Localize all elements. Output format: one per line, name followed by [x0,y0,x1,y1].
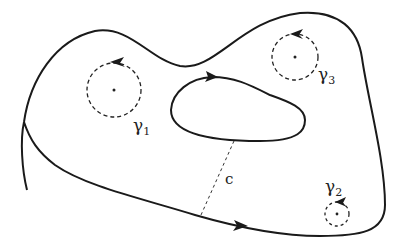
gamma1-arrow-icon [110,57,125,67]
gamma1-group [87,57,141,117]
gamma2-group [325,197,349,226]
inner-boundary-curve [171,77,305,141]
outer-boundary-curve [22,13,385,236]
gamma3-label: γ3 [318,64,335,87]
gamma3-center-dot [294,56,297,59]
multiply-connected-region-diagram: γ1 γ3 γ2 c [0,0,407,248]
gamma1-center-dot [113,89,116,92]
gamma3-group [272,29,318,80]
gamma1-label: γ1 [133,115,150,138]
cut-label: c [225,170,233,188]
gamma3-arrow-icon [290,29,303,39]
gamma2-center-dot [336,213,339,216]
gamma2-label: γ2 [325,176,342,199]
